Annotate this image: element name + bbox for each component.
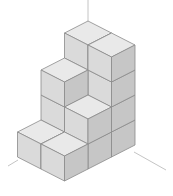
- isometric-cube-diagram: [0, 0, 173, 196]
- cubes: [18, 21, 136, 181]
- x-axis: [134, 152, 166, 170]
- cube-stack-figure: [0, 0, 173, 196]
- y-axis: [8, 160, 18, 166]
